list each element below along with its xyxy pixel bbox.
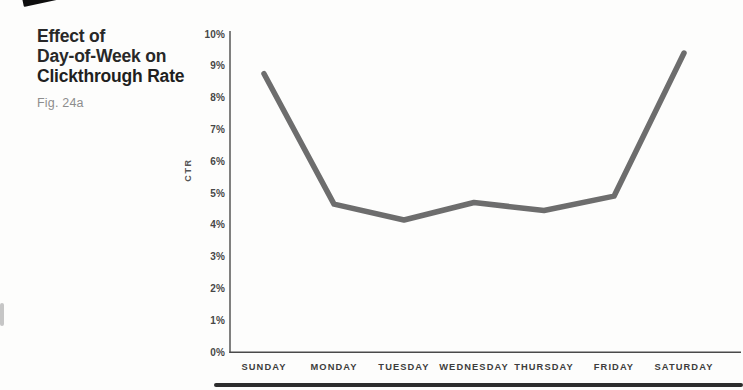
y-tick-label-0%: 0%	[210, 347, 225, 358]
page-bottom-edge-shadow	[214, 383, 743, 387]
x-label-thursday: THURSDAY	[514, 362, 574, 372]
scanned-figure-page: Effect of Day-of-Week on Clickthrough Ra…	[0, 0, 743, 390]
y-tick-label-8%: 8%	[210, 92, 225, 103]
x-label-tuesday: TUESDAY	[378, 362, 429, 372]
y-tick-label-6%: 6%	[210, 156, 225, 167]
x-label-saturday: SATURDAY	[655, 362, 714, 372]
y-tick-label-2%: 2%	[210, 283, 225, 294]
y-tick-label-10%: 10%	[204, 29, 225, 40]
y-tick-label-1%: 1%	[210, 315, 225, 326]
y-tick-label-7%: 7%	[210, 124, 225, 135]
y-axis-title: CTR	[183, 158, 193, 181]
y-tick-label-4%: 4%	[210, 219, 225, 230]
ctr-data-line	[264, 53, 684, 220]
x-label-monday: MONDAY	[310, 362, 357, 372]
x-label-sunday: SUNDAY	[241, 362, 286, 372]
ctr-line-chart: 0%1%2%3%4%5%6%7%8%9%10%CTRSUNDAYMONDAYTU…	[0, 0, 743, 390]
y-tick-label-5%: 5%	[210, 188, 225, 199]
y-tick-label-9%: 9%	[210, 60, 225, 71]
x-label-wednesday: WEDNESDAY	[439, 362, 508, 372]
x-label-friday: FRIDAY	[594, 362, 634, 372]
y-tick-label-3%: 3%	[210, 251, 225, 262]
